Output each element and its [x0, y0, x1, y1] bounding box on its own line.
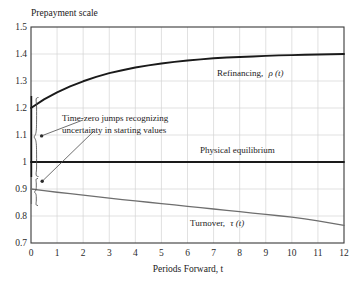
refinancing-label-text: Refinancing, — [217, 68, 263, 78]
y-axis-tick-label: 0.7 — [15, 238, 27, 248]
turnover-curve-label: Turnover, τ (t) — [190, 218, 244, 228]
annotation-line-2: uncertainty in starting values — [62, 125, 167, 135]
refinancing-symbol: ρ — [268, 68, 274, 78]
y-axis-tick-label: 1.5 — [15, 22, 27, 32]
x-axis-tick-label: 9 — [263, 248, 268, 258]
y-axis-tick-label: 0.9 — [15, 184, 27, 194]
y-axis-tick-label: 1.1 — [15, 130, 27, 140]
x-axis-tick-label: 10 — [287, 248, 297, 258]
refinancing-curve-label: Refinancing, ρ (t) — [217, 68, 284, 78]
y-axis-tick-label: 0.8 — [15, 211, 27, 221]
y-axis-tick-label: 1.4 — [15, 49, 27, 59]
annotation-arrowhead-refinancing — [40, 134, 43, 137]
turnover-symbol: τ — [230, 218, 234, 228]
x-axis-tick-label: 5 — [159, 248, 164, 258]
x-axis-tick-label: 0 — [29, 248, 34, 258]
x-axis-tick-label: 8 — [237, 248, 242, 258]
y-axis-tick-labels: 0.70.80.911.11.21.31.41.5 — [15, 22, 27, 248]
x-axis-tick-label: 2 — [81, 248, 86, 258]
x-axis-tick-label: 4 — [133, 248, 138, 258]
x-axis-tick-label: 3 — [107, 248, 112, 258]
prepayment-scale-chart: Prepayment scale 0.70.80.911.11.21.31.41… — [0, 0, 356, 286]
x-axis-tick-label: 7 — [211, 248, 216, 258]
annotation-line-1: Time-zero jumps recognizing — [62, 113, 169, 123]
physical-equilibrium-label: Physical equilibrium — [200, 145, 275, 155]
chart-title: Prepayment scale — [31, 8, 98, 18]
x-axis-tick-label: 12 — [339, 248, 349, 258]
x-axis-tick-label: 1 — [55, 248, 60, 258]
refinancing-paren: (t) — [275, 68, 284, 78]
y-axis-tick-label: 1 — [22, 157, 27, 167]
x-axis-title: Periods Forward, t — [153, 264, 224, 274]
y-axis-tick-label: 1.2 — [15, 103, 27, 113]
x-axis-tick-label: 11 — [313, 248, 322, 258]
annotation-arrowhead-turnover — [41, 180, 44, 183]
turnover-paren: (t) — [236, 218, 245, 228]
turnover-label-text: Turnover, — [190, 218, 225, 228]
y-axis-tick-label: 1.3 — [15, 76, 27, 86]
x-axis-tick-label: 6 — [185, 248, 190, 258]
